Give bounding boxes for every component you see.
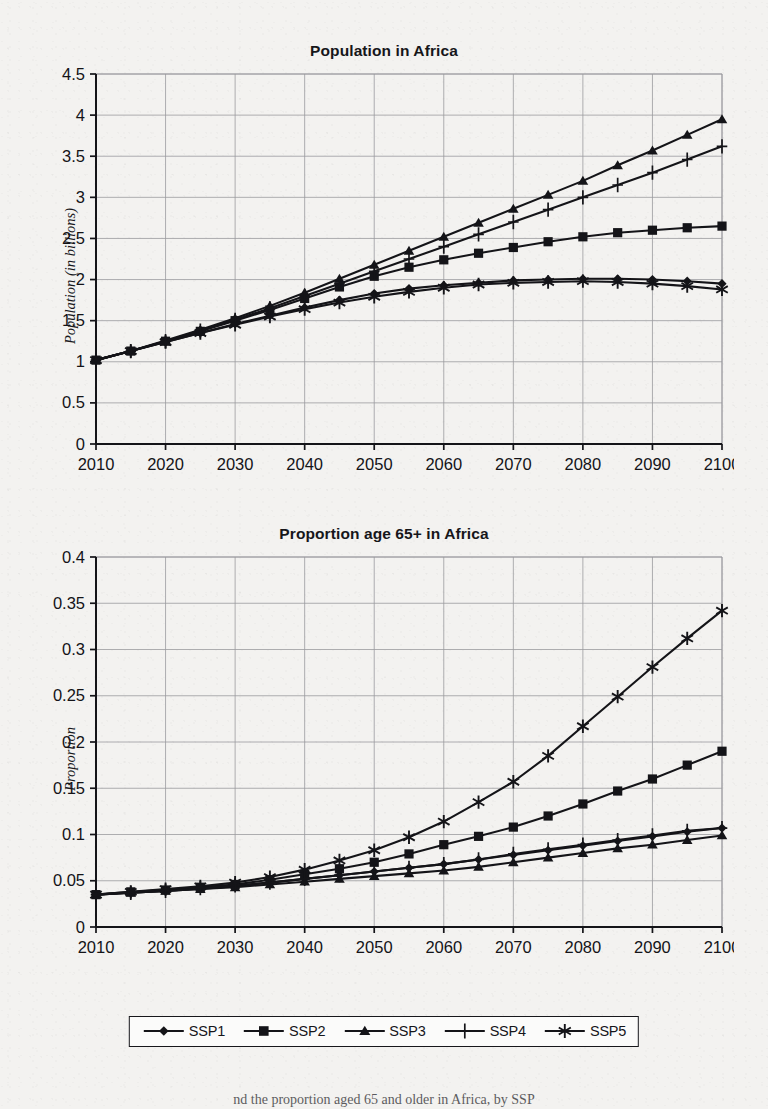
plus-marker (717, 821, 728, 835)
square-marker (474, 249, 483, 258)
marker-asterisk (438, 815, 450, 828)
marker-square (509, 243, 518, 252)
legend-swatch-plus-icon (443, 1021, 487, 1041)
marker-plus (473, 227, 484, 241)
marker-square (474, 249, 483, 258)
y-tick-label: 3 (76, 188, 85, 206)
square-marker (717, 222, 726, 231)
legend-item-ssp4[interactable]: SSP4 (443, 1021, 526, 1041)
x-tick-labels: 2010202020302040205020602070208020902100 (78, 455, 734, 473)
marker-square (404, 849, 413, 858)
y-tick-label: 0.1 (62, 825, 85, 843)
square-marker (509, 823, 518, 832)
plus-marker (473, 852, 484, 866)
plus-marker (612, 178, 623, 192)
marker-square (613, 228, 622, 237)
marker-square (439, 255, 448, 264)
legend-item-ssp3[interactable]: SSP3 (342, 1021, 425, 1041)
y-tick-label: 1 (76, 352, 85, 370)
plus-marker (612, 833, 623, 847)
plot-area-top: Population (in billions) 00.511.522.533.… (34, 66, 734, 486)
marker-plus (543, 203, 554, 217)
legend-label: SSP3 (389, 1023, 425, 1039)
marker-plus (508, 215, 519, 229)
axes (90, 74, 722, 450)
y-tick-label: 0 (76, 918, 85, 936)
y-tick-label: 2 (76, 270, 85, 288)
figure-caption-fragment: nd the proportion aged 65 and older in A… (0, 1092, 768, 1109)
plot-svg-top: 00.511.522.533.544.520102020203020402050… (34, 66, 734, 486)
marker-plus (473, 852, 484, 866)
marker-asterisk (508, 775, 520, 788)
x-tick-label: 2020 (147, 938, 184, 956)
marker-plus (508, 847, 519, 861)
plus-marker (717, 139, 728, 153)
x-tick-label: 2070 (495, 938, 532, 956)
marker-square (613, 786, 622, 795)
asterisk-marker (403, 831, 415, 844)
plus-marker (578, 190, 589, 204)
marker-square (578, 799, 587, 808)
plus-marker (543, 842, 554, 856)
marker-square (683, 761, 692, 770)
y-tick-label: 0.15 (53, 779, 85, 797)
asterisk-marker (473, 795, 485, 808)
y-tick-label: 0.2 (62, 733, 85, 751)
asterisk-marker (716, 604, 728, 617)
plus-marker (508, 847, 519, 861)
marker-square (544, 237, 553, 246)
legend-item-ssp1[interactable]: SSP1 (142, 1021, 225, 1041)
plus-marker (682, 152, 693, 166)
square-marker (544, 811, 553, 820)
series-line (96, 119, 722, 360)
marker-plus (459, 1024, 470, 1039)
plus-marker (647, 166, 658, 180)
asterisk-marker (368, 844, 380, 857)
x-tick-label: 2020 (147, 455, 184, 473)
legend-item-ssp2[interactable]: SSP2 (242, 1021, 325, 1041)
marker-asterisk (473, 795, 485, 808)
x-tick-label: 2090 (634, 938, 671, 956)
marker-plus (543, 842, 554, 856)
legend-item-ssp5[interactable]: SSP5 (543, 1021, 626, 1041)
marker-square (439, 840, 448, 849)
plus-marker (578, 838, 589, 852)
legend-label: SSP2 (289, 1023, 325, 1039)
marker-asterisk (403, 831, 415, 844)
square-marker (683, 761, 692, 770)
chart-proportion-age-65-plus-in-africa: Proportion age 65+ in Africa Proportion … (0, 525, 768, 995)
legend-swatch-square-icon (242, 1021, 286, 1041)
marker-plus (612, 833, 623, 847)
y-tick-label: 0 (76, 435, 85, 453)
y-tick-label: 0.3 (62, 640, 85, 658)
square-marker (509, 243, 518, 252)
plus-marker (473, 227, 484, 241)
legend-label: SSP4 (490, 1023, 526, 1039)
square-marker (613, 786, 622, 795)
x-tick-label: 2030 (217, 455, 254, 473)
marker-asterisk (368, 844, 380, 857)
x-tick-label: 2010 (78, 455, 115, 473)
y-tick-label: 4 (76, 106, 85, 124)
x-tick-label: 2060 (425, 938, 462, 956)
square-marker (717, 747, 726, 756)
marker-plus (578, 190, 589, 204)
y-tick-label: 3.5 (62, 147, 85, 165)
x-tick-label: 2040 (286, 938, 323, 956)
chart-title-top: Population in Africa (0, 42, 768, 66)
square-marker (578, 232, 587, 241)
y-tick-label: 0.05 (53, 871, 85, 889)
marker-asterisk (716, 604, 728, 617)
y-tick-labels: 00.511.522.533.544.5 (62, 66, 85, 453)
figure-two-panel-line-charts: Population in Africa Population (in bill… (0, 0, 768, 1109)
marker-diamond (159, 1026, 169, 1036)
marker-plus (647, 828, 658, 842)
chart-population-in-africa: Population in Africa Population (in bill… (0, 42, 768, 512)
legend-label: SSP1 (189, 1023, 225, 1039)
legend-swatch-diamond-icon (142, 1021, 186, 1041)
y-tick-label: 0.35 (53, 594, 85, 612)
square-marker (683, 223, 692, 232)
x-tick-label: 2100 (704, 455, 734, 473)
square-marker (404, 849, 413, 858)
marker-square (259, 1026, 269, 1036)
